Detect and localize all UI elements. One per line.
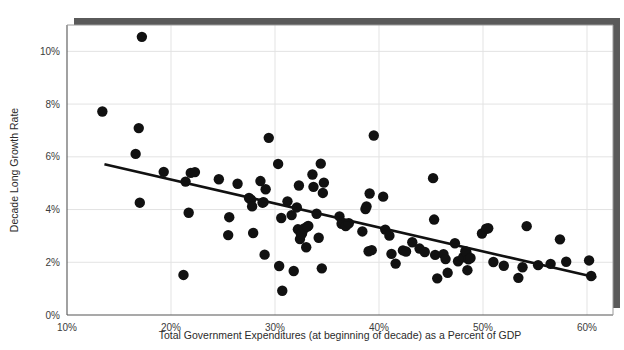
y-tick-label: 8%: [46, 99, 61, 110]
y-tick-label: 6%: [46, 151, 61, 162]
data-point: [302, 221, 312, 231]
data-point: [190, 167, 200, 177]
data-point: [130, 149, 140, 159]
scatter-plot-svg: 10%20%30%40%50%60% 0%2%4%6%8%10% Total G…: [0, 0, 624, 350]
data-point: [316, 158, 326, 168]
data-point: [159, 167, 169, 177]
data-point: [488, 257, 498, 267]
data-point: [420, 247, 430, 257]
data-point: [378, 191, 388, 201]
data-point: [432, 273, 442, 283]
data-point: [178, 270, 188, 280]
data-point: [357, 226, 367, 236]
data-point: [442, 268, 452, 278]
data-point: [214, 174, 224, 184]
data-point: [247, 201, 257, 211]
data-point: [361, 201, 371, 211]
data-point: [276, 213, 286, 223]
data-point: [517, 262, 527, 272]
y-axis-title: Decade Long Growth Rate: [8, 108, 20, 232]
data-point: [555, 234, 565, 244]
data-point: [513, 273, 523, 283]
data-point: [224, 212, 234, 222]
data-point: [428, 173, 438, 183]
data-point: [319, 177, 329, 187]
data-point: [462, 265, 472, 275]
data-point: [521, 221, 531, 231]
data-point: [273, 159, 283, 169]
data-point: [561, 257, 571, 267]
data-point: [386, 249, 396, 259]
data-point: [260, 184, 270, 194]
plot-panel-background: [67, 25, 613, 315]
data-point: [134, 123, 144, 133]
y-tick-label: 4%: [46, 204, 61, 215]
x-tick-label: 10%: [57, 322, 77, 333]
data-point: [440, 254, 450, 264]
data-point: [289, 266, 299, 276]
y-tick-labels: 0%2%4%6%8%10%: [40, 46, 60, 321]
x-tick-label: 60%: [577, 322, 597, 333]
data-point: [301, 242, 311, 252]
data-point: [248, 228, 258, 238]
data-point: [401, 246, 411, 256]
y-tick-label: 0%: [46, 310, 61, 321]
data-point: [294, 180, 304, 190]
data-point: [465, 253, 475, 263]
data-point: [97, 106, 107, 116]
data-point: [307, 169, 317, 179]
x-axis-title: Total Government Expenditures (at beginn…: [159, 329, 521, 341]
data-point: [277, 286, 287, 296]
data-point: [317, 263, 327, 273]
data-point: [232, 179, 242, 189]
data-point: [483, 223, 493, 233]
data-point: [308, 182, 318, 192]
chart-figure: 10%20%30%40%50%60% 0%2%4%6%8%10% Total G…: [0, 0, 624, 350]
data-point: [429, 214, 439, 224]
data-point: [223, 230, 233, 240]
data-point: [274, 261, 284, 271]
data-point: [264, 133, 274, 143]
data-point: [390, 258, 400, 268]
data-point: [259, 249, 269, 259]
data-point: [584, 255, 594, 265]
data-point: [367, 245, 377, 255]
data-point: [499, 261, 509, 271]
data-point: [137, 32, 147, 42]
data-point: [318, 188, 328, 198]
data-point: [183, 208, 193, 218]
data-point: [135, 197, 145, 207]
y-tick-label: 10%: [40, 46, 60, 57]
data-point: [313, 233, 323, 243]
y-tick-label: 2%: [46, 257, 61, 268]
data-point: [364, 188, 374, 198]
data-point: [369, 130, 379, 140]
